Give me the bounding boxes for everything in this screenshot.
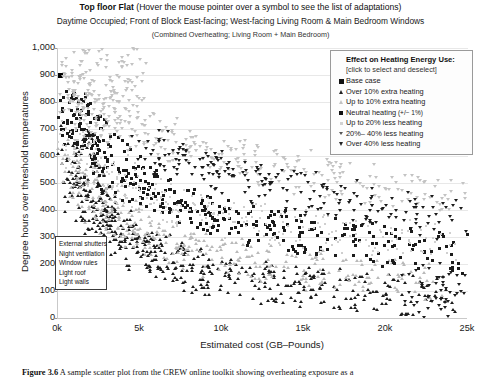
scatter-point-triangle-down-mid[interactable] <box>304 171 308 174</box>
scatter-point-square-dark-small[interactable] <box>76 140 79 143</box>
scatter-point-triangle-down-mid[interactable] <box>219 166 223 169</box>
scatter-point-triangle-down-dark[interactable] <box>268 189 272 192</box>
scatter-point-triangle-up-dark[interactable] <box>210 272 214 275</box>
scatter-point-square-dark-small[interactable] <box>381 265 384 268</box>
scatter-point-triangle-up-light[interactable] <box>71 165 75 168</box>
scatter-point-square-dark-small[interactable] <box>390 232 393 235</box>
scatter-point-dot-light[interactable] <box>265 223 267 225</box>
scatter-point-triangle-down-mid[interactable] <box>423 193 427 196</box>
scatter-point-dot-light[interactable] <box>264 203 266 205</box>
scatter-point-dot-light[interactable] <box>176 225 178 227</box>
scatter-point-triangle-up-light[interactable] <box>103 200 107 203</box>
scatter-point-square-dark-small[interactable] <box>157 192 160 195</box>
scatter-point-triangle-up-dark[interactable] <box>349 297 353 300</box>
scatter-point-triangle-up-dark[interactable] <box>74 219 78 222</box>
scatter-point-triangle-up-dark[interactable] <box>76 194 80 197</box>
scatter-point-triangle-up-dark[interactable] <box>203 293 207 296</box>
scatter-point-triangle-up-light[interactable] <box>397 275 401 278</box>
scatter-point-triangle-down-dark[interactable] <box>361 223 365 226</box>
scatter-point-square-dark-small[interactable] <box>113 133 116 136</box>
scatter-point-triangle-down-mid[interactable] <box>73 123 77 126</box>
scatter-point-triangle-up-dark[interactable] <box>411 274 415 277</box>
scatter-point-triangle-down-dark[interactable] <box>443 301 447 304</box>
scatter-point-triangle-up-light[interactable] <box>422 271 426 274</box>
scatter-point-square-dark-small[interactable] <box>123 150 126 153</box>
scatter-point-triangle-up-dark[interactable] <box>318 287 322 290</box>
scatter-point-triangle-down-mid[interactable] <box>96 64 100 67</box>
scatter-point-square-dark-small[interactable] <box>334 217 337 220</box>
scatter-point-triangle-up-light[interactable] <box>79 158 83 161</box>
scatter-point-triangle-down-mid[interactable] <box>377 196 381 199</box>
scatter-point-dot-light[interactable] <box>116 202 118 204</box>
scatter-point-triangle-up-light[interactable] <box>116 189 120 192</box>
scatter-point-square-dark-small[interactable] <box>93 133 96 136</box>
scatter-point-dot-light[interactable] <box>278 231 280 233</box>
scatter-point-triangle-up-dark[interactable] <box>207 293 211 296</box>
scatter-point-triangle-up-light[interactable] <box>117 215 121 218</box>
scatter-point-triangle-down-dark[interactable] <box>187 162 191 165</box>
scatter-point-triangle-down-mid[interactable] <box>168 160 172 163</box>
scatter-point-triangle-down-mid[interactable] <box>108 76 112 79</box>
scatter-point-dot-light[interactable] <box>132 187 134 189</box>
scatter-point-triangle-down-mid[interactable] <box>125 64 129 67</box>
scatter-point-triangle-up-dark[interactable] <box>91 134 95 137</box>
scatter-point-triangle-up-dark[interactable] <box>409 300 413 303</box>
scatter-point-triangle-down-mid[interactable] <box>88 82 92 85</box>
scatter-point-square-dark-small[interactable] <box>298 226 301 229</box>
scatter-point-triangle-down-dark[interactable] <box>175 168 179 171</box>
scatter-point-triangle-down-dark[interactable] <box>158 164 162 167</box>
scatter-point-triangle-up-light[interactable] <box>400 277 404 280</box>
scatter-point-triangle-up-light[interactable] <box>267 250 271 253</box>
scatter-point-triangle-up-dark[interactable] <box>171 279 175 282</box>
scatter-point-triangle-up-dark[interactable] <box>108 215 112 218</box>
scatter-point-triangle-down-mid[interactable] <box>173 123 177 126</box>
scatter-point-triangle-up-dark[interactable] <box>83 219 87 222</box>
scatter-point-square-dark-small[interactable] <box>62 121 65 124</box>
scatter-point-triangle-up-dark[interactable] <box>181 246 185 249</box>
scatter-point-square-dark-small[interactable] <box>66 122 69 125</box>
scatter-point-triangle-up-dark[interactable] <box>375 308 379 311</box>
scatter-point-triangle-up-light[interactable] <box>87 142 91 145</box>
scatter-point-dot-light[interactable] <box>319 226 321 228</box>
scatter-point-triangle-down-mid[interactable] <box>104 97 108 100</box>
scatter-point-dot-light[interactable] <box>62 130 64 132</box>
scatter-point-triangle-up-light[interactable] <box>155 230 159 233</box>
scatter-point-dot-light[interactable] <box>211 213 213 215</box>
scatter-point-triangle-up-light[interactable] <box>204 252 208 255</box>
scatter-point-triangle-up-light[interactable] <box>319 252 323 255</box>
scatter-point-triangle-down-mid[interactable] <box>89 93 93 96</box>
scatter-point-square-dark-small[interactable] <box>294 250 297 253</box>
scatter-point-triangle-up-light[interactable] <box>190 249 194 252</box>
scatter-point-triangle-up-light[interactable] <box>104 190 108 193</box>
scatter-point-dot-light[interactable] <box>100 157 102 159</box>
scatter-point-square-dark-small[interactable] <box>205 222 208 225</box>
scatter-point-triangle-up-dark[interactable] <box>207 258 211 261</box>
scatter-point-triangle-up-light[interactable] <box>267 265 271 268</box>
scatter-point-triangle-up-dark[interactable] <box>383 281 387 284</box>
scatter-point-triangle-down-dark[interactable] <box>216 159 220 162</box>
scatter-point-triangle-up-dark[interactable] <box>386 284 390 287</box>
scatter-point-square-dark-small[interactable] <box>78 123 81 126</box>
scatter-point-triangle-up-dark[interactable] <box>293 280 297 283</box>
scatter-point-dot-light[interactable] <box>82 147 84 149</box>
scatter-point-square-dark-small[interactable] <box>346 227 349 230</box>
scatter-point-dot-light[interactable] <box>213 212 215 214</box>
scatter-point-triangle-down-mid[interactable] <box>85 94 89 97</box>
scatter-point-triangle-up-dark[interactable] <box>206 286 210 289</box>
scatter-point-triangle-down-mid[interactable] <box>338 176 342 179</box>
scatter-point-dot-light[interactable] <box>274 239 276 241</box>
scatter-point-triangle-down-mid[interactable] <box>416 202 420 205</box>
scatter-point-square-dark-small[interactable] <box>97 184 100 187</box>
scatter-point-dot-light[interactable] <box>446 252 448 254</box>
scatter-point-triangle-up-light[interactable] <box>367 282 371 285</box>
scatter-point-square-dark-small[interactable] <box>319 246 322 249</box>
scatter-point-triangle-down-mid[interactable] <box>234 158 238 161</box>
scatter-point-triangle-down-mid[interactable] <box>186 148 190 151</box>
scatter-point-square-dark-small[interactable] <box>156 175 159 178</box>
scatter-point-dot-light[interactable] <box>179 220 181 222</box>
scatter-point-triangle-up-light[interactable] <box>304 280 308 283</box>
scatter-point-triangle-down-dark[interactable] <box>418 226 422 229</box>
scatter-point-triangle-down-mid[interactable] <box>171 159 175 162</box>
scatter-point-triangle-down-dark[interactable] <box>226 167 230 170</box>
scatter-point-square-dark-small[interactable] <box>87 110 90 113</box>
